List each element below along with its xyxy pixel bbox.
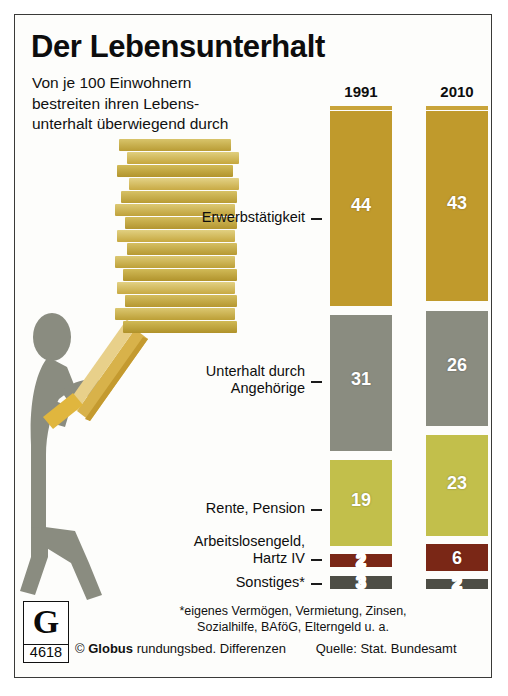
- bar-1991-rente: 19: [330, 460, 392, 546]
- row-label-erwerbstaetigkeit: Erwerbstätigkeit: [202, 209, 305, 226]
- bar-2010-sonstiges: 2: [426, 579, 488, 589]
- bar-2010-rente: 23: [426, 435, 488, 536]
- bar-value: 2: [426, 574, 488, 594]
- copyright-symbol: ©: [75, 641, 85, 656]
- bar-1991-unterhalt: 31: [330, 315, 392, 451]
- bar-value: 43: [426, 193, 488, 214]
- row-dash-3: [311, 509, 322, 511]
- row-dash-2: [311, 381, 322, 383]
- bar-value: 23: [426, 473, 488, 494]
- logo-number: 4618: [24, 643, 68, 662]
- row-label-rente: Rente, Pension: [206, 500, 305, 517]
- brand-name: Globus: [88, 641, 133, 656]
- row-label-arbeitslosengeld: Arbeitslosengeld, Hartz IV: [194, 533, 305, 567]
- column-header-1991: 1991: [330, 83, 392, 100]
- bar-1991-sonstiges: 3: [330, 576, 392, 589]
- bar-value: 26: [426, 355, 488, 376]
- row-label-sonstiges: Sonstiges*: [236, 574, 305, 591]
- logo-letter: G: [24, 602, 68, 645]
- bar-value: 19: [330, 490, 392, 511]
- column-header-2010: 2010: [426, 83, 488, 100]
- credit-line: © Globus rundungsbed. Differenzen Quelle…: [75, 641, 492, 656]
- source-note: Quelle: Stat. Bundesamt: [316, 641, 457, 656]
- bar-1991-erwerbstaetigkeit: 44: [330, 111, 392, 306]
- rounding-note: rundungsbed. Differenzen: [137, 641, 286, 656]
- bar-value: 6: [426, 548, 488, 569]
- row-dash-4: [311, 559, 322, 561]
- carried-plank-icon: [15, 295, 215, 625]
- footnote-text: *eigenes Vermögen, Vermietung, Zinsen, S…: [103, 603, 483, 635]
- bar-2010-unterhalt: 26: [426, 311, 488, 426]
- column-rule-2010: [426, 106, 488, 110]
- bar-value: 2: [330, 551, 392, 571]
- bar-2010-erwerbstaetigkeit: 43: [426, 111, 488, 301]
- bar-value: 3: [330, 573, 392, 593]
- infographic-poster: Der Lebensunterhalt Von je 100 Einwohner…: [14, 14, 492, 678]
- subtitle-text: Von je 100 Einwohnern bestreiten ihren L…: [32, 73, 228, 135]
- row-dash-5: [311, 583, 322, 585]
- globus-logo: G 4618: [23, 601, 69, 663]
- column-rule-1991: [330, 106, 392, 110]
- bar-2010-arbeitslosengeld: 6: [426, 544, 488, 571]
- bar-value: 31: [330, 369, 392, 390]
- row-label-unterhalt: Unterhalt durch Angehörige: [206, 363, 305, 397]
- row-dash-1: [311, 218, 322, 220]
- worker-illustration: [15, 295, 215, 625]
- bar-1991-arbeitslosengeld: 2: [330, 554, 392, 567]
- bar-value: 44: [330, 195, 392, 216]
- page-title: Der Lebensunterhalt: [31, 29, 325, 65]
